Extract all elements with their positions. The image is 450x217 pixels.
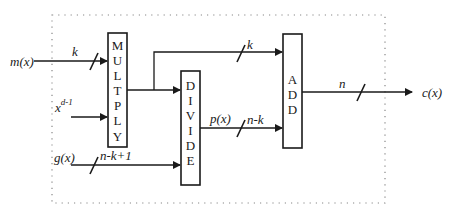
add-letter: D (288, 87, 297, 102)
divide-letter: E (187, 153, 195, 168)
multiply-letter: U (113, 53, 123, 68)
add-letter: D (288, 102, 297, 117)
multiply-letter: L (114, 68, 122, 83)
multiply-letter: L (114, 113, 122, 128)
input-label-generator: g(x) (54, 150, 75, 165)
multiply-letter: Y (113, 129, 123, 144)
bus-width-remainder: n-k (247, 112, 264, 127)
bus-slash-bypass (237, 45, 245, 62)
divide-letter: V (186, 108, 196, 123)
bus-width-bypass: k (247, 37, 253, 52)
divide-letter: D (186, 138, 195, 153)
bus-width-output: n (339, 76, 346, 91)
signal-label-remainder: p(x) (209, 111, 231, 126)
wire-multiply-bypass-to-add (154, 52, 282, 90)
shift-exponent: d-1 (61, 97, 73, 107)
input-label-shift: xd-1 (54, 97, 73, 115)
output-label-codeword: c(x) (422, 85, 442, 100)
multiply-letter: T (114, 83, 122, 98)
encoder-diagram: m(x) k xd-1 g(x) n-k+1 M U L T P L Y k D… (0, 0, 450, 217)
bus-width-message: k (72, 44, 78, 59)
multiply-letter: M (112, 38, 124, 53)
bus-width-generator: n-k+1 (100, 148, 132, 163)
divide-letter: I (188, 123, 192, 138)
divide-letter: I (188, 93, 192, 108)
input-label-message: m(x) (10, 54, 34, 69)
encoder-boundary-frame (52, 15, 385, 203)
divide-letter: D (186, 78, 195, 93)
add-block-label: A D D (288, 72, 298, 117)
multiply-letter: P (114, 98, 121, 113)
add-letter: A (288, 72, 298, 87)
